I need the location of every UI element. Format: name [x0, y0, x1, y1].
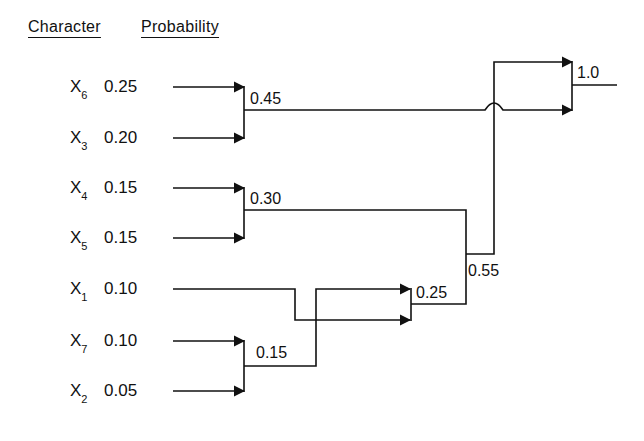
- node-label-025: 0.25: [416, 284, 447, 302]
- node-label-055: 0.55: [468, 262, 499, 280]
- branch-030: [244, 210, 466, 254]
- node-label-10: 1.0: [577, 64, 599, 82]
- arrow-x1: [173, 289, 410, 320]
- node-label-030: 0.30: [250, 190, 281, 208]
- node-label-045: 0.45: [250, 90, 281, 108]
- huffman-tree-lines: [0, 0, 644, 441]
- branch-055: [466, 62, 572, 254]
- branch-045: [244, 103, 572, 110]
- node-label-015: 0.15: [256, 344, 287, 362]
